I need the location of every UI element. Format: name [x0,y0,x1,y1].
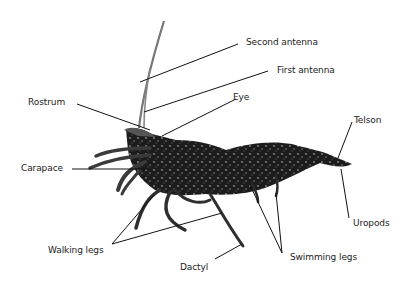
label-swimming-legs: Swimming legs [290,252,357,262]
label-dactyl: Dactyl [180,262,208,272]
front-appendages [90,148,150,194]
label-eye: Eye [233,92,249,102]
label-first-antenna: First antenna [277,65,335,75]
shrimp-body [124,128,352,195]
walking-legs-shapes [136,190,243,246]
label-walking-legs: Walking legs [48,245,104,255]
label-carapace: Carapace [21,163,63,173]
label-uropods: Uropods [353,218,390,228]
label-second-antenna: Second antenna [246,37,318,47]
label-telson: Telson [354,115,381,125]
label-rostrum: Rostrum [28,97,65,107]
